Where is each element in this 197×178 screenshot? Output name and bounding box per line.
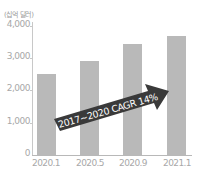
x-label-2021-1: 2021.1: [157, 158, 197, 168]
y-tick-mark: [30, 90, 33, 91]
y-tick-mark: [30, 58, 33, 59]
y-unit-label: (십억 달러): [4, 9, 34, 19]
y-tick-3000: 3,000: [0, 51, 30, 61]
x-label-2020-1: 2020.1: [26, 158, 66, 168]
y-tick-0: 0: [0, 148, 30, 158]
y-tick-1000: 1,000: [0, 116, 30, 126]
x-label-2020-5: 2020.5: [70, 158, 110, 168]
y-tick-mark: [30, 26, 33, 27]
cagr-annotation: 2017~2020 CAGR 14%: [57, 91, 160, 130]
x-axis: [32, 155, 192, 156]
y-tick-2000: 2,000: [0, 83, 30, 93]
y-axis: [32, 22, 33, 156]
x-label-2020-9: 2020.9: [113, 158, 153, 168]
y-tick-mark: [30, 123, 33, 124]
cagr-arrow-icon: 2017~2020 CAGR 14%: [52, 83, 170, 133]
y-tick-4000: 4,000: [0, 19, 30, 29]
